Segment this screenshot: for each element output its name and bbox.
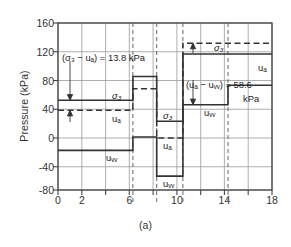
curve-label-ua-left: uₐ	[112, 113, 121, 124]
difference-arrow-1	[67, 61, 72, 122]
grid-lines	[58, 23, 272, 190]
figure-caption: (a)	[0, 219, 291, 231]
curve-label-uw-right: uᵥᵥ	[204, 107, 215, 118]
series-uw	[58, 85, 272, 176]
annotation-ua-minus-uw: (uₐ − uᵥᵥ) = 58.6	[186, 79, 252, 90]
annotation-ua-minus-uw-unit: kPa	[243, 93, 259, 104]
plot-svg	[0, 0, 291, 247]
curve-label-sigma3-right: σ₃	[214, 42, 223, 53]
figure-panel: Pressure (kPa) 16012080400-40-80 0261014…	[0, 0, 291, 247]
curve-label-uw-left: uᵥᵥ	[106, 152, 117, 163]
curve-label-sigma3-mid: σ₃	[163, 110, 172, 121]
curve-label-ua-right: uₐ	[258, 62, 267, 73]
plot-frame	[58, 23, 272, 190]
annotation-sigma3-minus-ua: (σ₃ − uₐ) = 13.8 kPa	[62, 52, 145, 63]
curve-label-uw-mid: uᵥᵥ	[163, 178, 174, 189]
curve-label-ua-mid: uₐ	[163, 140, 172, 151]
curve-label-sigma3-left: σ₃	[112, 90, 121, 101]
difference-arrow-2	[190, 43, 195, 104]
